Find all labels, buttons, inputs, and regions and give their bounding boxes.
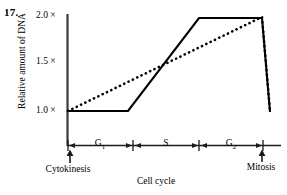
cytokinesis-arrow-icon (67, 150, 74, 164)
phase-label-g2-subscript: 2 (233, 143, 237, 151)
phase-label-s-text: S (163, 138, 168, 148)
phase-label-s: S (151, 138, 181, 148)
dotted-reference-curve (68, 17, 270, 111)
phase-label-g2: G2 (216, 138, 246, 151)
figure-container: 17. Relative amount of DNA 2.0 × 1.5 × 1… (0, 0, 287, 195)
x-axis-title: Cell cycle (96, 176, 216, 186)
phase-label-g1-text: G (95, 138, 102, 148)
solid-dna-curve (68, 18, 270, 112)
mitosis-label: Mitosis (236, 162, 286, 172)
mitosis-arrow-icon (259, 150, 266, 163)
cytokinesis-label: Cytokinesis (32, 164, 104, 174)
phase-label-g1: G1 (85, 138, 115, 151)
phase-label-g2-text: G (226, 138, 233, 148)
phase-label-g1-subscript: 1 (102, 143, 106, 151)
